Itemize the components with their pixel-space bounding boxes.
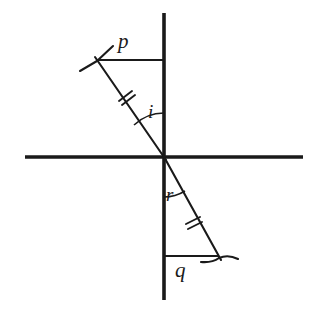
ray-diagram-svg <box>0 0 317 316</box>
figure-container: p q i r <box>0 0 317 316</box>
label-i: i <box>148 102 153 121</box>
label-p: p <box>118 31 129 52</box>
refracted-ray <box>163 155 221 260</box>
incident-ray <box>95 57 166 160</box>
tick-on-refracted-ray-icon <box>186 217 202 229</box>
label-q: q <box>175 260 186 281</box>
label-r: r <box>166 185 173 204</box>
